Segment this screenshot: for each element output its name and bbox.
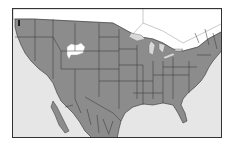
range-map (13, 9, 222, 138)
puget-sound-mark (18, 20, 20, 26)
map-frame (12, 8, 222, 138)
